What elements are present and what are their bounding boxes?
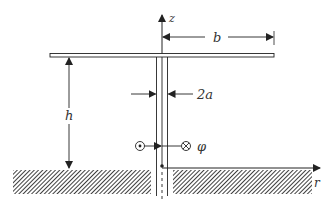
phi-label: φ xyxy=(197,139,207,154)
top-hat-plate xyxy=(50,54,274,58)
dot-in-circle-icon xyxy=(136,142,145,151)
ground-plane-right xyxy=(173,170,312,194)
h-label: h xyxy=(65,108,73,123)
cross-in-circle-icon xyxy=(182,142,191,151)
feed-point-dot xyxy=(160,164,164,168)
b-label: b xyxy=(213,30,221,45)
ground-plane-left xyxy=(13,170,151,194)
2a-label: 2a xyxy=(196,87,213,102)
antenna-diagram: r z b 2a h φ xyxy=(0,0,334,205)
r-axis-label: r xyxy=(314,176,321,190)
z-axis-label: z xyxy=(168,12,175,25)
